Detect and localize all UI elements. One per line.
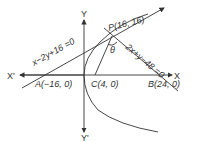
point-p-label: P(16, 16) bbox=[107, 14, 145, 33]
y-axis-label: Y bbox=[81, 9, 87, 19]
theta-label: θ bbox=[110, 45, 115, 55]
normal-equation-label: 2x+y−48 =0 bbox=[123, 41, 166, 80]
x-neg-axis-label: X' bbox=[7, 71, 15, 81]
tangent-equation-label: x−2y+16 =0 bbox=[29, 36, 76, 68]
parabola-curve bbox=[84, 14, 158, 132]
y-neg-axis-label: Y' bbox=[81, 133, 89, 142]
parabola-diagram: X X' Y Y' A(−16, 0) B(24, 0) C(4, 0) P(1… bbox=[0, 0, 212, 142]
point-a-label: A(−16, 0) bbox=[34, 79, 72, 89]
point-b-label: B(24, 0) bbox=[148, 79, 180, 89]
point-c-label: C(4, 0) bbox=[91, 79, 119, 89]
